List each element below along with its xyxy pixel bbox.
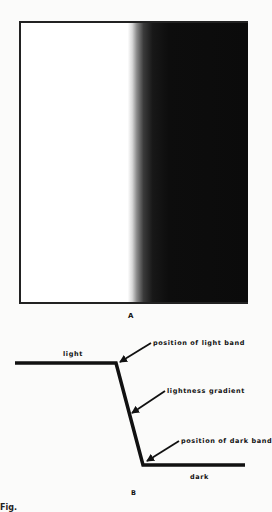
lightness-profile-line bbox=[15, 363, 245, 465]
light-label: light bbox=[63, 351, 83, 358]
arrow-dark-band bbox=[147, 441, 179, 461]
dark-band-annotation: position of dark band bbox=[181, 438, 272, 445]
panel-b-label: B bbox=[131, 490, 137, 497]
light-band-annotation: position of light band bbox=[153, 340, 245, 347]
gradient-annotation: lightness gradient bbox=[167, 388, 245, 395]
arrow-gradient bbox=[132, 391, 165, 413]
dark-label: dark bbox=[190, 474, 209, 481]
arrow-light-band bbox=[120, 343, 151, 362]
figure-caption: Fig. bbox=[0, 503, 17, 512]
